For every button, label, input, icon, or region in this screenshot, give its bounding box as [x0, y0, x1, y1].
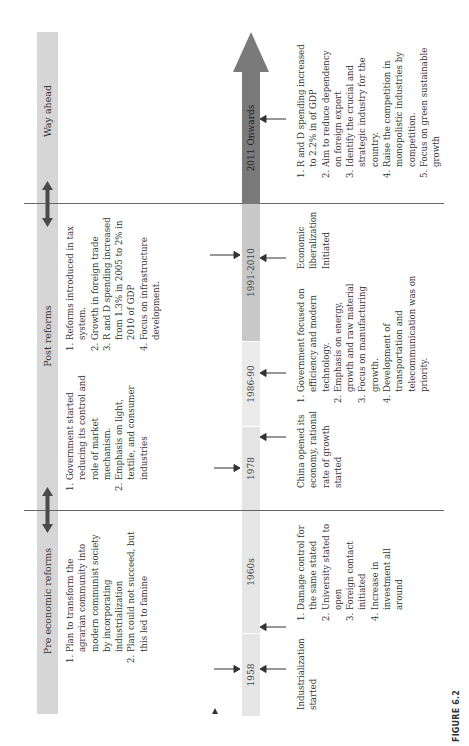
note-1991-2010-below: Economic liberalization Initiated [295, 209, 332, 269]
timeline-label-2011: 2011 Onwards [242, 72, 260, 204]
figure-label: FIGURE 6.2 [452, 690, 461, 742]
timeline-segment-1991-2010: 1991-2010 [242, 204, 260, 341]
note-1960s-below: 1.Damage control for the same stated 2.U… [295, 516, 406, 621]
note-1986-90-below: 1.Government focused on efficiency and m… [295, 273, 430, 403]
phase-label-post: Post reforms [37, 226, 58, 446]
phase-label-pre: Pre economic reforms [37, 526, 58, 676]
double-arrow-icon [42, 181, 53, 227]
phase-label-ahead: Way ahead [37, 36, 58, 186]
note-post-reforms: 1.Reforms introduced in tax system. 2.Gr… [64, 211, 162, 351]
timeline-diagram: Pre economic reforms Post reforms Way ah… [0, 0, 469, 746]
note-1978-below: China opened its economy, rational rate … [295, 410, 344, 488]
note-1978-above: 1.Government started reducing its contro… [64, 371, 150, 491]
note-2011-below: 1.R and D spending increased to 2.2% in … [295, 38, 443, 178]
timeline-segment-1986-90: 1986-90 [242, 342, 260, 426]
timeline-segment-1958: 1958 [242, 634, 260, 716]
timeline-segment-1978: 1978 [242, 427, 260, 510]
note-1958-below: Industrialization started [295, 625, 320, 710]
timeline-segment-1960s: 1960s [242, 511, 260, 633]
phase-divider-1 [24, 510, 444, 511]
note-pre-reforms: 1.Plan to transform the agrarian communi… [64, 523, 150, 663]
double-arrow-icon [42, 487, 53, 533]
